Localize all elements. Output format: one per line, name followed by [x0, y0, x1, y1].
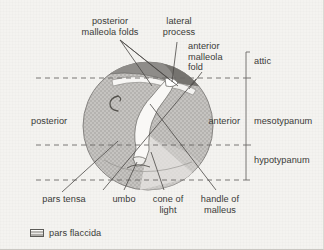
label-anterior-malleola-fold-line3: fold — [188, 62, 242, 73]
region-bracket — [246, 52, 251, 180]
label-anterior-malleola-fold: anterior malleola fold — [188, 41, 242, 73]
label-posterior-malleola-folds: posterior malleola folds — [62, 16, 158, 37]
label-handle-of-malleus: handle of malleus — [192, 194, 248, 215]
label-posterior-malleola-folds-line1: posterior — [62, 16, 158, 27]
label-pars-tensa: pars tensa — [36, 194, 92, 205]
label-posterior-malleola-folds-line2: malleola folds — [62, 27, 158, 38]
label-anterior: anterior — [178, 116, 240, 127]
label-anterior-malleola-fold-line1: anterior — [188, 41, 242, 52]
label-handle-of-malleus-line2: malleus — [192, 205, 248, 216]
label-region-hypotypanum: hypotypanum — [254, 155, 310, 166]
label-anterior-malleola-fold-line2: malleola — [188, 52, 242, 63]
label-umbo: umbo — [100, 194, 148, 205]
label-lateral-process: lateral process — [152, 16, 206, 37]
label-region-attic: attic — [254, 56, 271, 67]
label-lateral-process-line1: lateral — [152, 16, 206, 27]
label-lateral-process-line2: process — [152, 27, 206, 38]
pars-flaccida-swatch-icon — [30, 229, 44, 237]
label-cone-of-light: cone of light — [146, 194, 190, 215]
label-cone-of-light-line2: light — [146, 205, 190, 216]
label-handle-of-malleus-line1: handle of — [192, 194, 248, 205]
legend: pars flaccida — [30, 228, 101, 239]
label-cone-of-light-line1: cone of — [146, 194, 190, 205]
label-region-mesotypanum: mesotypanum — [254, 116, 312, 127]
label-posterior: posterior — [31, 116, 67, 127]
legend-label-pars-flaccida: pars flaccida — [49, 228, 101, 239]
